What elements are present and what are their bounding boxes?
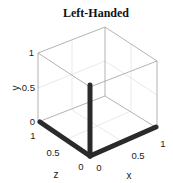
x-tick-1: 1 [160,138,165,149]
z-tick-0.5: 0.5 [46,147,59,158]
chart-canvas: Left-Handed 1 0.5 0 y 1 0.5 0 z 0 0.5 1 … [0,0,173,183]
z-tick-0: 0 [78,161,83,172]
x-axis-label: x [127,170,132,181]
y-tick-0.5: 0.5 [22,82,35,93]
axes-box [38,27,157,128]
z-axis-label: z [54,169,59,180]
x-tick-0: 0 [96,162,101,173]
x-tick-0.5: 0.5 [131,150,144,161]
y-tick-0: 0 [30,116,35,127]
chart-title: Left-Handed [63,6,129,20]
x-axis-bar [90,127,156,156]
z-tick-1: 1 [30,130,35,141]
y-tick-1: 1 [29,47,34,58]
grid-lines [38,40,157,142]
y-axis-label: y [10,86,21,91]
axis-bars [40,85,156,156]
